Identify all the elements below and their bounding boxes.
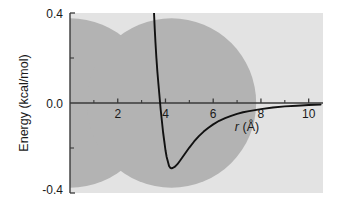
x-tick-label: 6 <box>210 107 217 121</box>
y-axis-title: Energy (kcal/mol) <box>17 54 31 151</box>
y-axis-tick-labels: -0.40.00.4 <box>42 7 63 197</box>
chart-canvas: 246810 -0.40.00.4 r (Å) Energy (kcal/mol… <box>0 0 338 207</box>
y-tick-label: 0.4 <box>46 7 63 21</box>
figure-page: 246810 -0.40.00.4 r (Å) Energy (kcal/mol… <box>0 0 338 207</box>
x-tick-label: 4 <box>162 107 169 121</box>
x-axis-title: r (Å) <box>235 119 259 134</box>
x-tick-label: 2 <box>114 107 121 121</box>
x-tick-label: 10 <box>302 107 316 121</box>
y-tick-label: -0.4 <box>42 183 63 197</box>
y-tick-label: 0.0 <box>46 97 63 111</box>
lennard-jones-potential-chart: 246810 -0.40.00.4 r (Å) Energy (kcal/mol… <box>0 0 338 207</box>
